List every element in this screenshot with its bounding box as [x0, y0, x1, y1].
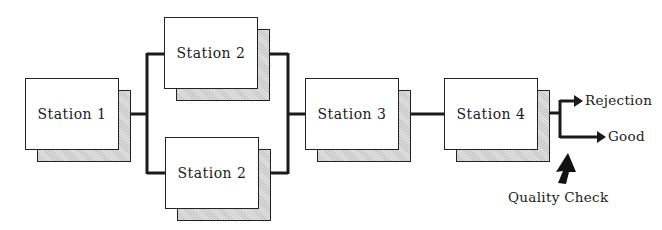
quality-check-arrow-icon	[556, 153, 576, 184]
good-label: Good	[608, 128, 645, 144]
station-4: Station 4	[444, 78, 538, 150]
rejection-label: Rejection	[585, 92, 652, 108]
good-arrowhead	[597, 131, 606, 143]
station-label: Station 4	[444, 78, 538, 150]
station-1: Station 1	[25, 78, 119, 150]
station-2-bottom: Station 2	[165, 137, 259, 209]
station-label: Station 2	[165, 137, 259, 209]
quality-check-label: Quality Check	[508, 189, 608, 205]
rejection-arrowhead	[574, 95, 583, 107]
station-2-top: Station 2	[164, 17, 258, 89]
station-label: Station 2	[164, 17, 258, 89]
station-label: Station 3	[305, 78, 399, 150]
station-label: Station 1	[25, 78, 119, 150]
station-3: Station 3	[305, 78, 399, 150]
